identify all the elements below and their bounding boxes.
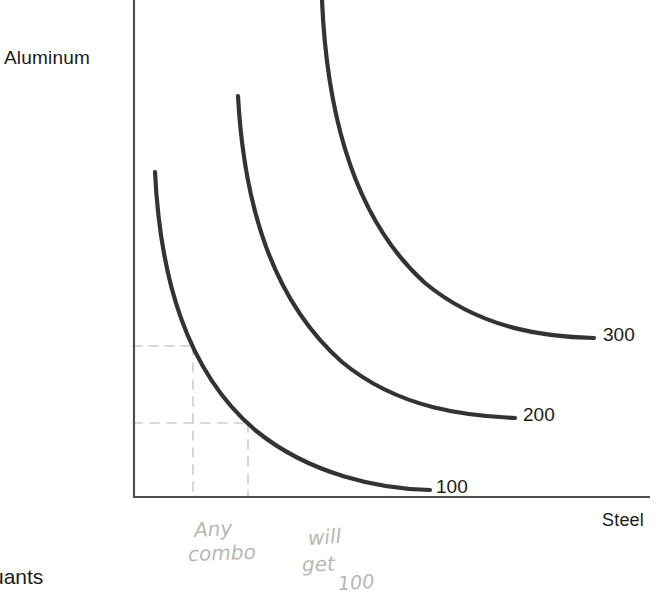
isoquant-curve-100[interactable] (155, 172, 430, 490)
guide-lines-group (133, 346, 252, 497)
isoquant-curve-200[interactable] (238, 96, 515, 418)
y-axis-title: Aluminum (4, 47, 90, 69)
isoquant-diagram-page: Aluminum Steel 100 200 300 Any combo wil… (0, 0, 668, 615)
footer-note-text: uants (0, 565, 43, 589)
isoquant-curve-300[interactable] (322, 0, 594, 338)
curve-label-200: 200 (523, 404, 555, 426)
curve-label-300: 300 (603, 324, 635, 346)
isoquant-chart-svg (0, 0, 668, 615)
curve-label-100: 100 (436, 476, 468, 498)
x-axis-title: Steel (602, 510, 644, 531)
